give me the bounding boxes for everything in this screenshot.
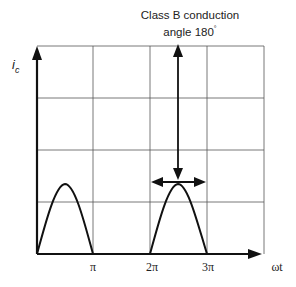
axes <box>32 46 262 259</box>
x-axis-label: ωt <box>271 260 282 275</box>
conduction-angle-arrows <box>151 44 206 187</box>
grid <box>37 46 264 254</box>
x-tick-pi: π <box>90 260 96 275</box>
annotation-line1: Class B conduction <box>130 8 250 22</box>
x-tick-3pi: 3π <box>202 260 214 275</box>
annotation-line2: angle 180 <box>163 26 214 38</box>
y-axis-label: ic <box>12 57 19 75</box>
chart-canvas <box>0 0 296 287</box>
x-tick-2pi: 2π <box>146 260 158 275</box>
current-pulses <box>37 184 207 254</box>
annotation-label: Class B conduction angle 180° <box>130 8 250 39</box>
degree-mark: ° <box>214 25 217 32</box>
